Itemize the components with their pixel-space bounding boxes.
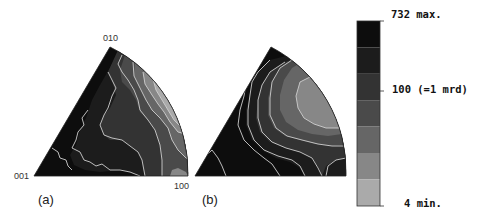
colorbar-reference-label: 100 (=1 mrd) — [392, 83, 468, 95]
pole-figure-plot — [0, 0, 478, 220]
pole-label-010: 010 — [103, 33, 118, 43]
colorbar-min-label: 4 min. — [404, 197, 442, 209]
pole-label-100: 100 — [174, 181, 189, 191]
colorbar-max-label: 732 max. — [391, 8, 442, 20]
panel-b-contours — [190, 40, 355, 180]
colorbar — [357, 21, 384, 206]
panel-label-b: (b) — [202, 192, 218, 207]
panel-a-contours — [30, 40, 200, 180]
pole-label-001: 001 — [14, 171, 29, 181]
panel-label-a: (a) — [38, 192, 54, 207]
